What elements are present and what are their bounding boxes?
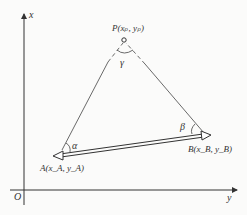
point-p-label: P(xₚ, yₚ) [112,24,144,33]
baseline-ab [60,134,203,154]
angle-alpha-label: α [72,141,77,151]
triangulation-diagram: x y O P(xₚ, yₚ) A(x_A, y_A) B(x_B, y_B) … [0,0,247,215]
angle-alpha-arc [66,143,70,152]
origin-label: O [14,192,21,202]
x-axis-label: x [29,10,33,20]
point-p-marker [122,38,126,42]
angle-beta-arc [191,124,195,134]
station-a-marker [53,151,63,160]
angle-gamma-arc [117,50,133,53]
point-a-label: A(x_A, y_A) [40,164,84,173]
baseline-ab-inner [61,137,204,157]
station-b-marker [201,131,211,140]
y-axis-label: y [227,193,231,203]
side-pb-dashed [126,43,145,64]
angle-beta-label: β [180,122,185,132]
point-b-label: B(x_B, y_B) [188,145,232,154]
side-pb [145,64,204,133]
angle-gamma-label: γ [120,58,124,68]
side-pa [62,62,108,150]
